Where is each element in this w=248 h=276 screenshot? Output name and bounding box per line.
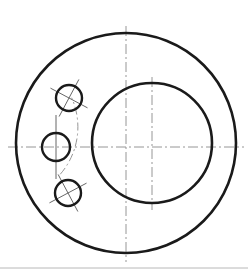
engineering-drawing-canvas (0, 0, 248, 276)
